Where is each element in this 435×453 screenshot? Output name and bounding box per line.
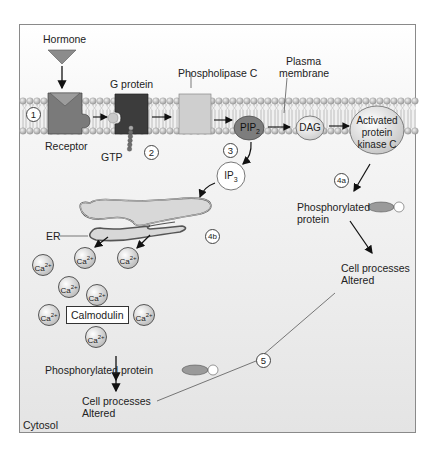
calcium-ion: Ca2+ [86,284,108,306]
phosphorylated-protein-left: Phosphorylated protein [45,364,153,376]
step-2-marker: 2 [144,145,159,160]
er-label: ER [46,230,61,242]
calcium-ion: Ca2+ [133,304,155,326]
calcium-ion: Ca2+ [74,247,96,269]
plasma-membrane-label-line1: Plasma [286,55,321,67]
step-1-marker: 1 [26,107,41,122]
cell-processes-right-line2: Altered [341,274,374,286]
calcium-ion: Ca2+ [85,326,107,348]
step-4a-marker: 4a [334,173,349,188]
cell-processes-left-line2: Altered [82,407,115,419]
cytosol-label: Cytosol [23,419,58,431]
pip2-label: PIP2 [235,122,265,138]
hormone-label: Hormone [43,33,83,45]
cell-processes-right-line1: Cell processes [341,262,410,274]
step-5-marker: 5 [256,353,271,368]
cell-processes-left-line1: Cell processes [82,395,151,407]
phosphorylated-protein-right-line2: protein [297,213,329,225]
hormone-triangle [48,50,76,64]
gtp-label: GTP [101,151,123,163]
plasma-membrane-label-line2: membrane [279,67,329,79]
receptor-label: Receptor [45,140,88,152]
phosphorylated-protein-right-line1: Phosphorylated [297,201,370,213]
calmodulin-box: Calmodulin [66,306,129,324]
calcium-ion: Ca2+ [58,276,80,298]
activated-pkc-label: Activated protein kinase C [350,115,404,151]
ip3-label: IP3 [217,170,245,186]
step-4b-marker: 4b [205,229,220,244]
phospholipase-c-shape [179,94,211,134]
g-protein-label: G protein [110,78,153,90]
endoplasmic-reticulum [80,198,211,241]
calcium-ion: Ca2+ [32,254,54,276]
calcium-ion: Ca2+ [38,304,60,326]
dag-label: DAG [296,122,324,134]
step-3-marker: 3 [223,143,238,158]
phospholipase-c-label: Phospholipase C [178,67,257,79]
calcium-ion: Ca2+ [117,247,139,269]
